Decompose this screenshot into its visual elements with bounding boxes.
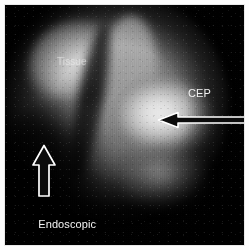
endoscopic-shield-label-line1: Endoscopic	[38, 218, 96, 230]
endoscopic-shield-arrow-icon	[31, 144, 57, 198]
endoscopic-figure: CEP Tissue Endoscopic shield	[0, 0, 249, 250]
figure-frame: CEP Tissue Endoscopic shield	[4, 4, 245, 246]
endoscopic-shield-label: Endoscopic shield	[13, 206, 93, 246]
tissue-label: Tissue	[57, 56, 87, 67]
cep-label: CEP	[188, 87, 211, 99]
cep-arrow-icon	[157, 107, 245, 133]
annotation-layer: CEP Tissue Endoscopic shield	[5, 5, 244, 245]
endoscopic-shield-label-line2: shield	[13, 243, 93, 246]
